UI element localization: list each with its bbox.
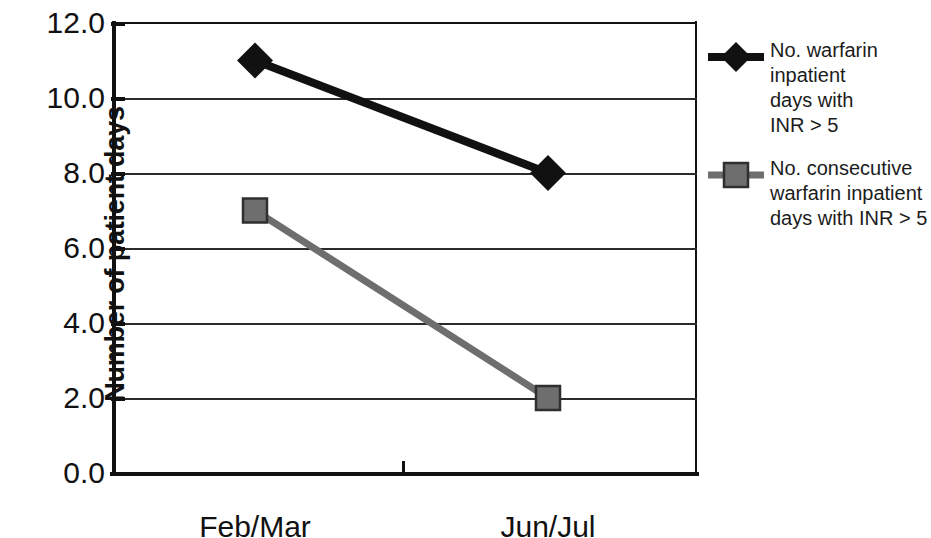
data-point-consecutive-junjul [536, 386, 560, 410]
x-tick-label-febmar: Feb/Mar [199, 510, 311, 538]
legend-label-consecutive-line-2: warfarin inpatient [770, 181, 931, 206]
y-tick-label-8: 8.0 [0, 158, 105, 188]
legend-label-warfarin-line-3: days with [770, 88, 931, 113]
data-point-warfarin-febmar [237, 43, 273, 79]
series-line-warfarin [255, 61, 548, 174]
y-tick-label-0: 0.0 [0, 458, 105, 488]
line-chart-figure: Number of patient days 12.0 10.0 8.0 6.0… [0, 0, 931, 538]
legend-label-consecutive-line-3: days with INR > 5 [770, 206, 931, 231]
plot-area: Feb/Mar Jun/Jul [112, 23, 697, 473]
legend-label-warfarin: No. warfarin inpatient days with INR > 5 [770, 38, 931, 138]
diamond-marker-icon [708, 42, 764, 72]
y-tick-label-12: 12.0 [0, 8, 105, 38]
legend-label-warfarin-line-1: No. warfarin [770, 38, 931, 63]
data-point-warfarin-junjul [530, 155, 566, 191]
series-line-consecutive [255, 211, 548, 399]
square-marker-icon [708, 160, 764, 190]
y-tick-label-2: 2.0 [0, 383, 105, 413]
legend-label-warfarin-line-2: inpatient [770, 63, 931, 88]
series-layer [112, 23, 697, 473]
chart-legend: No. warfarin inpatient days with INR > 5… [708, 36, 931, 236]
data-point-consecutive-febmar [243, 199, 267, 223]
y-tick-label-10: 10.0 [0, 83, 105, 113]
y-tick-label-4: 4.0 [0, 308, 105, 338]
legend-label-consecutive-line-1: No. consecutive [770, 156, 931, 181]
legend-label-warfarin-line-4: INR > 5 [770, 113, 931, 138]
x-tick-label-junjul: Jun/Jul [500, 510, 595, 538]
y-tick-label-6: 6.0 [0, 233, 105, 263]
legend-label-consecutive: No. consecutive warfarin inpatient days … [770, 156, 931, 231]
